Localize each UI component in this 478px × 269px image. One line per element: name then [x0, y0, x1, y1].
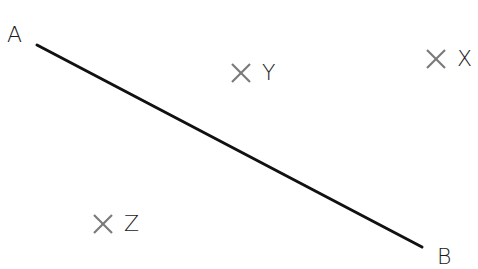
- label-point-x: X: [457, 48, 472, 70]
- label-point-b: B: [437, 246, 451, 268]
- label-point-a: A: [7, 24, 22, 46]
- cross-marker-y-icon: [232, 64, 250, 82]
- label-point-y: Y: [262, 62, 275, 84]
- diagram-canvas: [0, 0, 478, 269]
- cross-marker-x-icon: [427, 50, 445, 68]
- label-point-z: Z: [124, 213, 139, 235]
- cross-marker-z-icon: [94, 215, 112, 233]
